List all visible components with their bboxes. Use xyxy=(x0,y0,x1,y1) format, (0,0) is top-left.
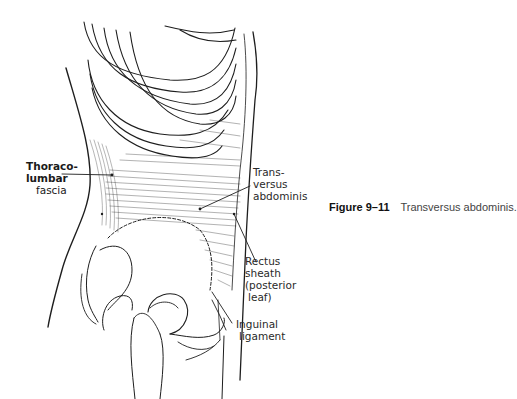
obturator xyxy=(103,296,133,330)
label-thoracolumbar-fascia: Thoraco- lumbar fascia xyxy=(26,160,78,196)
label-line: lumbar xyxy=(26,172,78,184)
left-body-outline xyxy=(48,68,90,327)
label-line: ligament xyxy=(236,330,285,342)
label-transversus-abdominis: Trans- versus abdominis xyxy=(253,166,307,202)
inguinal-leader xyxy=(212,292,232,323)
leader-lines xyxy=(62,174,256,323)
label-inguinal-ligament: Inguinal ligament xyxy=(236,318,285,342)
label-line: Inguinal xyxy=(236,318,285,330)
transversus-leader xyxy=(200,186,250,209)
transversus-fibers xyxy=(106,120,240,286)
femur xyxy=(131,318,135,399)
iliac-crest xyxy=(108,218,212,290)
label-line: leaf) xyxy=(245,291,296,303)
thoracolumbar-fibers xyxy=(90,140,119,232)
figure-caption: Figure 9–11 Transversus abdominis. xyxy=(329,201,517,213)
pubis xyxy=(170,318,225,337)
figure-caption-text: Transversus abdominis. xyxy=(400,201,516,213)
label-line: (posterior xyxy=(245,279,296,291)
rib-cage xyxy=(84,22,236,158)
label-line: versus xyxy=(253,178,307,190)
ilium-left xyxy=(86,246,98,322)
label-line: Trans- xyxy=(253,166,307,178)
femoral-head xyxy=(148,294,188,334)
label-line: sheath xyxy=(245,267,296,279)
figure-number: Figure 9–11 xyxy=(329,201,390,213)
label-line: Rectus xyxy=(245,255,296,267)
label-line: abdominis xyxy=(253,190,307,202)
label-rectus-sheath: Rectus sheath (posterior leaf) xyxy=(245,255,296,303)
label-line: fascia xyxy=(26,184,78,196)
label-line: Thoraco- xyxy=(26,160,78,172)
